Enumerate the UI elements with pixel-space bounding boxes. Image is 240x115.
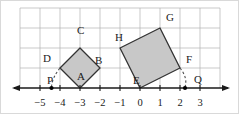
x-tick-label: 3 [197, 97, 202, 108]
x-tick-label: 2 [177, 97, 182, 108]
x-axis-tick-labels: −5 −4 −3 −2 −1 0 1 2 3 [34, 97, 202, 108]
label-p: P [47, 74, 53, 86]
square-abcd [60, 48, 100, 88]
label-a: A [77, 70, 85, 82]
x-tick-label: −5 [34, 97, 45, 108]
x-tick-label: −2 [94, 97, 105, 108]
x-axis-right-arrow [222, 85, 230, 91]
coordinate-plane-svg: A B C D E F G H P Q −5 −4 −3 −2 −1 0 1 2… [0, 0, 240, 115]
label-f: F [186, 53, 192, 65]
x-tick-label: 1 [157, 97, 162, 108]
x-tick-label: −1 [114, 97, 125, 108]
label-q: Q [194, 73, 202, 85]
x-tick-label: −3 [74, 97, 85, 108]
x-axis-left-arrow [12, 85, 20, 91]
label-c: C [77, 24, 84, 36]
geometry-figure: A B C D E F G H P Q −5 −4 −3 −2 −1 0 1 2… [0, 0, 240, 115]
x-axis [12, 85, 230, 91]
label-g: G [166, 11, 174, 23]
arc-f-to-q-icon [180, 68, 186, 87]
label-b: B [95, 54, 102, 66]
x-tick-label: 0 [137, 97, 142, 108]
x-tick-label: −4 [54, 97, 66, 108]
label-e: E [133, 74, 140, 86]
point-p-dot [49, 86, 53, 90]
label-d: D [43, 52, 51, 64]
square-efgh [120, 28, 180, 88]
point-q-dot [183, 86, 187, 90]
label-h: H [115, 31, 123, 43]
